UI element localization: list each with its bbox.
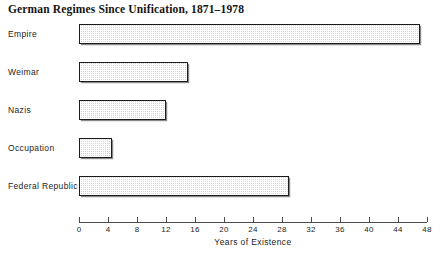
x-axis-tick-label: 20 xyxy=(219,225,229,234)
x-axis-tick xyxy=(369,217,370,222)
x-axis-tick-label: 48 xyxy=(422,225,432,234)
bar xyxy=(79,62,188,82)
bar xyxy=(79,138,112,158)
x-axis-tick-label: 36 xyxy=(335,225,345,234)
x-axis: Years of Existence 048121620242832364044… xyxy=(0,222,442,256)
x-axis-tick xyxy=(224,217,225,222)
x-axis-tick xyxy=(166,217,167,222)
x-axis-tick xyxy=(137,217,138,222)
x-axis-tick xyxy=(282,217,283,222)
x-axis-tick xyxy=(398,217,399,222)
x-axis-tick-label: 44 xyxy=(393,225,403,234)
category-label: Federal Republic xyxy=(8,181,78,191)
x-axis-tick-label: 4 xyxy=(106,225,111,234)
x-axis-tick-label: 0 xyxy=(77,225,82,234)
x-axis-tick-label: 8 xyxy=(135,225,140,234)
x-axis-title: Years of Existence xyxy=(214,237,291,247)
category-label: Nazis xyxy=(8,105,31,115)
category-label: Occupation xyxy=(8,143,55,153)
plot-area: EmpireWeimarNazisOccupationFederal Repub… xyxy=(0,20,442,220)
x-axis-tick xyxy=(195,217,196,222)
chart-title: German Regimes Since Unification, 1871–1… xyxy=(8,3,244,15)
x-axis-tick xyxy=(253,217,254,222)
x-axis-tick-label: 40 xyxy=(364,225,374,234)
bar xyxy=(79,176,289,196)
x-axis-tick xyxy=(340,217,341,222)
bar xyxy=(79,24,420,44)
x-axis-tick-label: 24 xyxy=(248,225,258,234)
x-axis-tick xyxy=(311,217,312,222)
x-axis-tick xyxy=(79,217,80,222)
category-label: Weimar xyxy=(8,67,39,77)
x-axis-tick xyxy=(108,217,109,222)
x-axis-tick-label: 16 xyxy=(190,225,200,234)
x-axis-tick-label: 12 xyxy=(161,225,171,234)
x-axis-line xyxy=(79,222,427,223)
x-axis-tick-label: 32 xyxy=(306,225,316,234)
bar xyxy=(79,100,166,120)
x-axis-tick xyxy=(427,217,428,222)
x-axis-tick-label: 28 xyxy=(277,225,287,234)
category-label: Empire xyxy=(8,29,37,39)
bar-chart-figure: German Regimes Since Unification, 1871–1… xyxy=(0,0,442,256)
